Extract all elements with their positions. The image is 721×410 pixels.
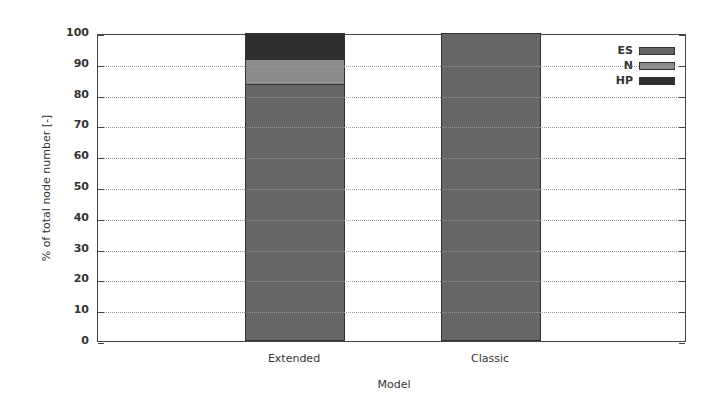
x-tick-label: Classic [471, 352, 509, 365]
y-tick-mark [98, 343, 104, 344]
y-tick-mark [98, 127, 104, 128]
y-tick-mark [679, 220, 685, 221]
y-tick-label: 90 [59, 57, 89, 70]
y-tick-label: 50 [59, 180, 89, 193]
y-tick-mark [679, 66, 685, 67]
y-tick-label: 60 [59, 149, 89, 162]
y-tick-mark [98, 220, 104, 221]
y-tick-mark [679, 343, 685, 344]
y-axis-title: % of total node number [-] [40, 115, 53, 262]
legend-item-hp: HP [616, 73, 675, 88]
x-tick-label: Extended [268, 352, 320, 365]
x-axis-title: Model [377, 378, 410, 391]
y-tick-label: 100 [59, 26, 89, 39]
y-tick-mark [679, 189, 685, 190]
y-tick-mark [98, 66, 104, 67]
y-tick-label: 0 [59, 334, 89, 347]
gridline [98, 281, 685, 282]
y-tick-mark [679, 158, 685, 159]
y-tick-mark [98, 251, 104, 252]
plot-area: ESNHP [97, 34, 686, 342]
y-tick-mark [98, 281, 104, 282]
y-tick-mark [98, 35, 104, 36]
gridline [98, 66, 685, 67]
y-tick-label: 70 [59, 118, 89, 131]
y-tick-mark [679, 281, 685, 282]
gridline [98, 189, 685, 190]
legend-label: HP [616, 74, 633, 87]
y-tick-label: 10 [59, 303, 89, 316]
y-tick-label: 40 [59, 211, 89, 224]
y-tick-mark [98, 312, 104, 313]
y-tick-label: 80 [59, 88, 89, 101]
bar-segment-hp [246, 34, 344, 60]
gridline [98, 127, 685, 128]
bar-extended [245, 33, 345, 341]
gridline [98, 312, 685, 313]
y-tick-mark [679, 251, 685, 252]
y-tick-mark [679, 127, 685, 128]
y-tick-mark [679, 35, 685, 36]
y-tick-mark [98, 97, 104, 98]
y-tick-mark [679, 97, 685, 98]
y-tick-label: 20 [59, 272, 89, 285]
y-tick-mark [98, 158, 104, 159]
bar-segment-n [246, 60, 344, 85]
gridline [98, 158, 685, 159]
legend-item-es: ES [616, 43, 675, 58]
bar-segment-es [246, 85, 344, 340]
bar-segment-es [442, 34, 540, 340]
gridline [98, 220, 685, 221]
legend-swatch [639, 47, 675, 55]
y-tick-mark [679, 312, 685, 313]
gridline [98, 97, 685, 98]
bar-classic [441, 33, 541, 341]
legend-label: ES [618, 44, 633, 57]
y-tick-label: 30 [59, 242, 89, 255]
gridline [98, 251, 685, 252]
y-tick-mark [98, 189, 104, 190]
legend-swatch [639, 77, 675, 85]
